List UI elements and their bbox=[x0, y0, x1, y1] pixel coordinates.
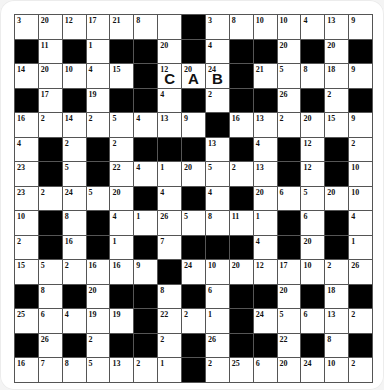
grid-cell[interactable]: 14 bbox=[63, 113, 86, 137]
grid-cell[interactable]: 20 bbox=[87, 285, 110, 309]
grid-cell[interactable]: 12 bbox=[254, 260, 277, 284]
grid-cell[interactable]: 16 bbox=[230, 113, 253, 137]
grid-cell[interactable]: 20 bbox=[278, 285, 301, 309]
grid-cell[interactable]: 5 bbox=[110, 113, 133, 137]
grid-cell[interactable]: 10 bbox=[278, 15, 301, 39]
grid-cell[interactable]: 16 bbox=[87, 260, 110, 284]
grid-cell[interactable]: 11 bbox=[39, 40, 62, 64]
grid-cell[interactable]: 4 bbox=[158, 187, 181, 211]
grid-cell[interactable]: 1 bbox=[254, 211, 277, 235]
grid-cell[interactable]: 13 bbox=[325, 309, 348, 333]
grid-cell[interactable]: 3 bbox=[206, 15, 229, 39]
grid-cell[interactable]: 4 bbox=[134, 113, 157, 137]
grid-cell[interactable] bbox=[158, 15, 181, 39]
grid-cell[interactable]: 10 bbox=[349, 162, 372, 186]
grid-cell[interactable]: 26 bbox=[39, 334, 62, 358]
grid-cell[interactable]: 13 bbox=[158, 113, 181, 137]
grid-cell[interactable]: 13 bbox=[254, 162, 277, 186]
grid-cell[interactable]: 2 bbox=[325, 89, 348, 113]
grid-cell[interactable]: 21 bbox=[254, 64, 277, 88]
grid-cell[interactable]: 10 bbox=[63, 64, 86, 88]
grid-cell[interactable]: 16 bbox=[63, 236, 86, 260]
grid-cell[interactable]: 15 bbox=[110, 64, 133, 88]
grid-cell[interactable]: 17 bbox=[278, 260, 301, 284]
grid-cell[interactable]: 2 bbox=[39, 187, 62, 211]
grid-cell[interactable]: 26 bbox=[158, 211, 181, 235]
grid-cell[interactable]: 10 bbox=[325, 358, 348, 382]
grid-cell[interactable]: 6 bbox=[278, 187, 301, 211]
grid-cell[interactable]: 12 bbox=[301, 138, 324, 162]
grid-cell[interactable]: 20 bbox=[254, 187, 277, 211]
grid-cell[interactable]: 13 bbox=[254, 113, 277, 137]
grid-cell[interactable]: 11 bbox=[230, 211, 253, 235]
grid-cell[interactable]: 5 bbox=[87, 358, 110, 382]
grid-cell[interactable]: 20 bbox=[39, 15, 62, 39]
grid-cell[interactable]: 2 bbox=[182, 309, 205, 333]
grid-cell[interactable]: 20 bbox=[301, 113, 324, 137]
grid-cell[interactable]: 23 bbox=[15, 162, 38, 186]
grid-cell[interactable]: 2 bbox=[134, 358, 157, 382]
grid-cell[interactable]: 5 bbox=[182, 211, 205, 235]
grid-cell[interactable]: 5 bbox=[301, 187, 324, 211]
grid-cell[interactable]: 18 bbox=[325, 285, 348, 309]
grid-cell[interactable]: 1 bbox=[158, 358, 181, 382]
grid-cell[interactable]: 8 bbox=[39, 285, 62, 309]
grid-cell[interactable]: 4 bbox=[15, 138, 38, 162]
grid-cell[interactable]: 8 bbox=[63, 211, 86, 235]
grid-cell[interactable]: 4 bbox=[206, 40, 229, 64]
grid-cell[interactable]: 2 bbox=[158, 334, 181, 358]
grid-cell[interactable]: 20 bbox=[158, 40, 181, 64]
grid-cell[interactable]: 2 bbox=[87, 113, 110, 137]
grid-cell[interactable]: 2 bbox=[349, 358, 372, 382]
grid-cell[interactable]: 16 bbox=[110, 260, 133, 284]
grid-cell[interactable]: 22 bbox=[278, 334, 301, 358]
grid-cell[interactable]: 20 bbox=[278, 358, 301, 382]
grid-cell[interactable]: 23 bbox=[15, 187, 38, 211]
grid-cell[interactable]: 5 bbox=[87, 187, 110, 211]
grid-cell[interactable]: 19 bbox=[87, 309, 110, 333]
grid-cell[interactable]: 24B bbox=[206, 64, 229, 88]
grid-cell[interactable]: 7 bbox=[158, 236, 181, 260]
grid-cell[interactable]: 10 bbox=[206, 260, 229, 284]
grid-cell[interactable]: 17 bbox=[87, 15, 110, 39]
grid-cell[interactable]: 26 bbox=[349, 260, 372, 284]
grid-cell[interactable]: 20 bbox=[110, 187, 133, 211]
grid-cell[interactable]: 24 bbox=[254, 309, 277, 333]
grid-cell[interactable]: 9 bbox=[349, 64, 372, 88]
grid-cell[interactable]: 24 bbox=[301, 358, 324, 382]
grid-cell[interactable]: 4 bbox=[301, 15, 324, 39]
grid-cell[interactable]: 4 bbox=[349, 211, 372, 235]
grid-cell[interactable]: 14 bbox=[15, 64, 38, 88]
grid-cell[interactable]: 7 bbox=[39, 358, 62, 382]
grid-cell[interactable]: 22 bbox=[158, 309, 181, 333]
grid-cell[interactable]: 1 bbox=[158, 162, 181, 186]
grid-cell[interactable]: 24 bbox=[63, 187, 86, 211]
grid-cell[interactable]: 2 bbox=[87, 334, 110, 358]
grid-cell[interactable]: 6 bbox=[206, 285, 229, 309]
grid-cell[interactable]: 15 bbox=[325, 113, 348, 137]
grid-cell[interactable]: 5 bbox=[278, 64, 301, 88]
grid-cell[interactable]: 20 bbox=[325, 40, 348, 64]
grid-cell[interactable]: 16 bbox=[15, 113, 38, 137]
grid-cell[interactable]: 25 bbox=[230, 358, 253, 382]
grid-cell[interactable]: 4 bbox=[254, 138, 277, 162]
grid-cell[interactable]: 20 bbox=[39, 64, 62, 88]
grid-cell[interactable]: 6 bbox=[254, 358, 277, 382]
grid-cell[interactable]: 17 bbox=[39, 89, 62, 113]
grid-cell[interactable]: 2 bbox=[110, 138, 133, 162]
grid-cell[interactable]: 2 bbox=[206, 358, 229, 382]
grid-cell[interactable]: 18 bbox=[325, 64, 348, 88]
grid-cell[interactable]: 20 bbox=[230, 260, 253, 284]
grid-cell[interactable]: 2 bbox=[39, 113, 62, 137]
grid-cell[interactable]: 1 bbox=[206, 309, 229, 333]
grid-cell[interactable]: 8 bbox=[134, 15, 157, 39]
grid-cell[interactable]: 13 bbox=[206, 138, 229, 162]
grid-cell[interactable]: 1 bbox=[87, 40, 110, 64]
grid-cell[interactable]: 19 bbox=[110, 309, 133, 333]
grid-cell[interactable]: 4 bbox=[87, 64, 110, 88]
grid-cell[interactable]: 6 bbox=[39, 309, 62, 333]
grid-cell[interactable]: 12 bbox=[63, 15, 86, 39]
grid-cell[interactable]: 8 bbox=[206, 211, 229, 235]
grid-cell[interactable]: 15 bbox=[15, 260, 38, 284]
grid-cell[interactable]: 2 bbox=[63, 260, 86, 284]
